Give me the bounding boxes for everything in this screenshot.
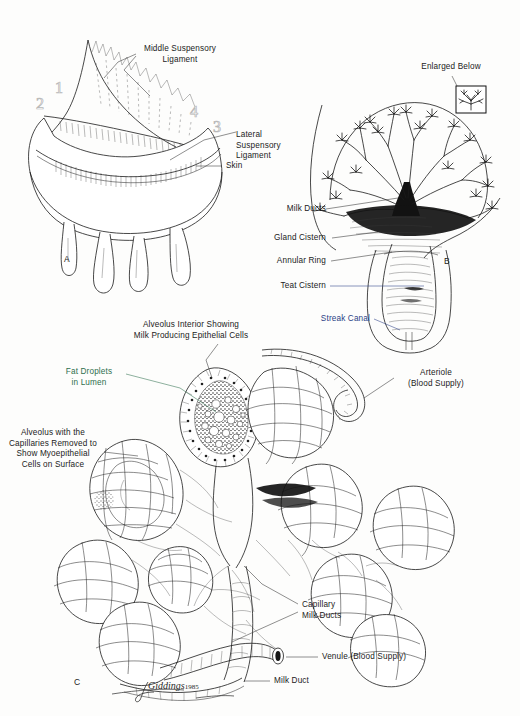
label-gland-cistern: Gland Cistern xyxy=(236,233,326,244)
callout-number-1: 1 xyxy=(55,79,63,97)
label-lateral-suspensory-ligament: Lateral Suspensory Ligament xyxy=(236,130,310,162)
panel-letter-a: A xyxy=(64,254,70,264)
panel-letter-b: B xyxy=(444,256,450,266)
label-teat-cistern: Teat Cistern xyxy=(246,281,326,292)
panel-a-artwork xyxy=(29,40,222,293)
figure-artwork xyxy=(0,0,520,716)
label-enlarged-below: Enlarged Below xyxy=(404,62,498,73)
callout-number-4: 4 xyxy=(190,103,198,121)
callout-number-2: 2 xyxy=(36,95,44,113)
label-annular-ring: Annular Ring xyxy=(236,256,326,267)
signature-flourish xyxy=(108,676,238,704)
label-streak-canal: Streak Canal xyxy=(294,314,370,325)
label-middle-suspensory-ligament: Middle Suspensory Ligament xyxy=(128,44,232,65)
panel-c-artwork xyxy=(54,349,454,701)
enlarged-below-box xyxy=(456,86,486,113)
callout-number-3: 3 xyxy=(213,118,221,136)
label-arteriole: Arteriole (Blood Supply) xyxy=(396,368,476,389)
label-venule: Venule (Blood Supply) xyxy=(322,652,406,663)
anatomy-figure: Middle Suspensory Ligament Lateral Suspe… xyxy=(0,0,520,716)
label-milk-duct: Milk Duct xyxy=(274,676,309,687)
label-alveolus-interior: Alveolus Interior Showing Milk Producing… xyxy=(96,320,286,341)
panel-letter-c: C xyxy=(74,677,80,687)
label-capillary-milk-ducts: Capillary Milk Ducts xyxy=(302,600,372,621)
label-alveolus-capillaries-removed: Alveolus with the Capillaries Removed to… xyxy=(2,428,104,470)
label-milk-ducts: Milk Ducts xyxy=(256,204,326,215)
label-skin: Skin xyxy=(226,161,243,172)
label-fat-droplets-in-lumen: Fat Droplets in Lumen xyxy=(50,367,128,388)
